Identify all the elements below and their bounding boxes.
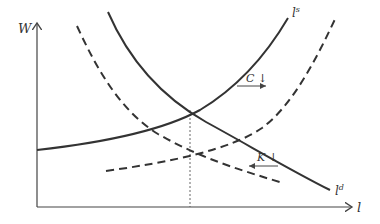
capital-shift-annotation: K ↓ [249, 151, 278, 166]
shifted-supply-curve [106, 17, 336, 171]
capital-shift-label: K ↓ [256, 151, 278, 164]
supply-curve-label: ls [292, 5, 300, 20]
demand-curve [108, 12, 330, 190]
demand-curve-label: ld [335, 183, 344, 198]
y-axis-label: W [18, 21, 33, 36]
labor-market-diagram: W l ls ld C ↓ K ↓ [0, 0, 380, 224]
x-axis-label: l [357, 200, 361, 215]
consumption-shift-label: C ↓ [246, 72, 267, 85]
